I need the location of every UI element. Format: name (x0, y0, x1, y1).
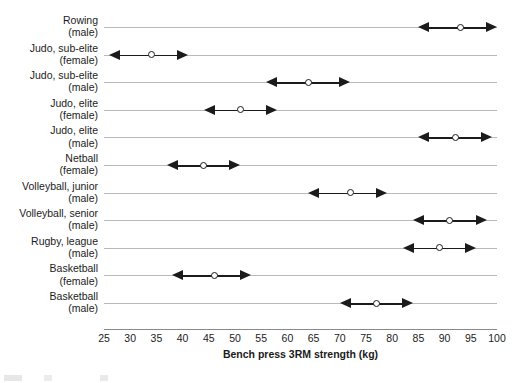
arrow-head-left-icon (418, 132, 429, 142)
x-tick-label: 25 (98, 332, 110, 344)
category-label: Judo, elite(male) (50, 124, 98, 148)
category-label-line2: (female) (50, 275, 98, 287)
arrow-head-left-icon (403, 243, 414, 253)
range-arrow (340, 298, 413, 309)
arrow-head-left-icon (109, 50, 120, 60)
mean-marker (200, 162, 207, 169)
category-label-line1: Volleyball, senior (19, 207, 98, 219)
x-tick-label: 80 (386, 332, 398, 344)
category-label-line1: Rugby, league (31, 235, 98, 247)
category-label: Volleyball, senior(male) (19, 207, 98, 231)
category-label-line1: Rowing (63, 14, 98, 26)
category-label-line1: Volleyball, junior (22, 180, 98, 192)
arrow-head-right-icon (177, 50, 188, 60)
arrow-head-left-icon (340, 298, 351, 308)
arrow-head-right-icon (339, 77, 350, 87)
arrow-head-right-icon (240, 270, 251, 280)
category-label-line1: Basketball (50, 290, 98, 302)
mean-marker (457, 24, 464, 31)
x-tick-label: 50 (229, 332, 241, 344)
arrow-head-left-icon (167, 160, 178, 170)
range-arrow (418, 22, 497, 33)
x-tick-label: 45 (203, 332, 215, 344)
mean-marker (211, 272, 218, 279)
category-label-line1: Judo, elite (50, 97, 98, 109)
bench-press-range-chart: Rowing(male)Judo, sub-elite(female)Judo,… (0, 0, 521, 383)
category-label-line2: (male) (31, 247, 98, 259)
x-axis-tick-labels: 253035404550556065707580859095100 (104, 330, 497, 346)
mean-marker (452, 134, 459, 141)
range-arrow (204, 105, 277, 116)
arrow-head-left-icon (413, 215, 424, 225)
x-tick-label: 95 (465, 332, 477, 344)
arrow-head-right-icon (481, 132, 492, 142)
category-label-line2: (male) (63, 26, 98, 38)
mean-marker (148, 51, 155, 58)
arrow-head-left-icon (266, 77, 277, 87)
row-baseline (104, 110, 497, 111)
category-label: Judo, sub-elite(male) (30, 69, 98, 93)
arrow-head-right-icon (266, 105, 277, 115)
range-arrow (172, 270, 251, 281)
mean-marker (237, 106, 244, 113)
arrow-head-left-icon (418, 22, 429, 32)
range-arrow (403, 243, 476, 254)
arrow-head-right-icon (486, 22, 497, 32)
category-label-line2: (male) (22, 192, 98, 204)
row-baseline (104, 275, 497, 276)
category-label-line1: Judo, sub-elite (30, 69, 98, 81)
category-label-line1: Judo, sub-elite (30, 42, 98, 54)
category-label-line2: (male) (19, 219, 98, 231)
category-label-line2: (male) (50, 302, 98, 314)
mean-marker (436, 244, 443, 251)
x-tick-label: 100 (488, 332, 506, 344)
x-tick-label: 60 (282, 332, 294, 344)
x-tick-label: 75 (360, 332, 372, 344)
category-label: Judo, sub-elite(female) (30, 42, 98, 66)
category-label: Volleyball, junior(male) (22, 180, 98, 204)
category-label-line1: Basketball (50, 262, 98, 274)
arrow-head-left-icon (308, 188, 319, 198)
arrow-head-right-icon (476, 215, 487, 225)
row-baseline (104, 193, 497, 194)
category-label-line1: Judo, elite (50, 124, 98, 136)
mean-marker (373, 300, 380, 307)
row-baseline (104, 165, 497, 166)
row-baseline (104, 303, 497, 304)
range-arrow (308, 188, 387, 199)
mean-marker (305, 79, 312, 86)
category-label-line1: Netball (65, 152, 98, 164)
x-axis-title: Bench press 3RM strength (kg) (104, 348, 497, 360)
arrow-head-right-icon (229, 160, 240, 170)
x-tick-label: 90 (439, 332, 451, 344)
mean-marker (446, 217, 453, 224)
arrow-head-left-icon (172, 270, 183, 280)
category-label-line2: (male) (30, 81, 98, 93)
arrow-head-right-icon (465, 243, 476, 253)
scan-artifact (4, 375, 154, 381)
category-label: Basketball(male) (50, 290, 98, 314)
x-tick-label: 30 (124, 332, 136, 344)
category-label-line2: (female) (59, 164, 98, 176)
category-label: Rugby, league(male) (31, 235, 98, 259)
category-label: Basketball(female) (50, 262, 98, 286)
range-arrow (266, 77, 350, 88)
range-arrow (167, 160, 240, 171)
category-label: Rowing(male) (63, 14, 98, 38)
range-arrow (418, 132, 491, 143)
arrow-head-right-icon (402, 298, 413, 308)
plot-area: Rowing(male)Judo, sub-elite(female)Judo,… (104, 8, 497, 330)
mean-marker (347, 189, 354, 196)
category-label-line2: (female) (50, 109, 98, 121)
category-label-line2: (female) (30, 54, 98, 66)
x-tick-label: 55 (255, 332, 267, 344)
range-arrow (109, 50, 188, 61)
category-label-line2: (male) (50, 137, 98, 149)
x-tick-label: 85 (413, 332, 425, 344)
x-tick-label: 35 (151, 332, 163, 344)
range-arrow (413, 215, 486, 226)
x-tick-label: 65 (308, 332, 320, 344)
category-label: Judo, elite(female) (50, 97, 98, 121)
arrow-head-left-icon (204, 105, 215, 115)
x-tick-label: 70 (334, 332, 346, 344)
